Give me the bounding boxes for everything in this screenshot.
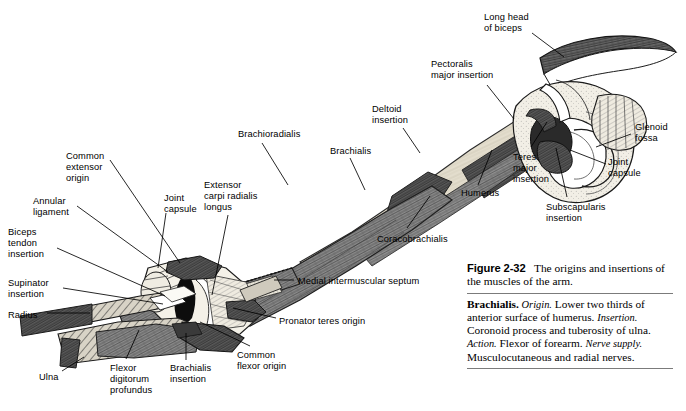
label-long-head-of-biceps: Long head of biceps [484,12,529,34]
label-pronator-teres-origin: Pronator teres origin [279,316,365,327]
label-joint-capsule-right: Joint capsule [608,157,641,179]
label-common-flexor-origin: Common flexor origin [237,350,286,372]
label-annular-ligament: Annular ligament [33,196,69,218]
caption-title: Figure 2-32 The origins and insertions o… [467,262,673,289]
label-teres-major-insertion: Teres major insertion [513,152,549,186]
label-coracobrachialis: Coracobrachialis [377,234,448,245]
brachialis-shape [228,186,452,326]
label-joint-capsule-left: Joint capsule [164,193,197,215]
label-brachialis: Brachialis [330,146,371,157]
label-brachioradialis: Brachioradialis [238,129,300,140]
figure-page: Long head of bicepsPectoralis major inse… [0,0,686,411]
figure-caption: Figure 2-32 The origins and insertions o… [467,262,673,373]
clavicle-acromion [540,36,676,88]
label-deltoid-insertion: Deltoid insertion [372,104,408,126]
label-subscapularis-insertion: Subscapularis insertion [546,202,606,224]
label-supinator-insertion: Supinator insertion [8,278,49,300]
figure-number: Figure 2-32 [467,262,526,274]
leader-deltoid-insertion [403,128,420,153]
leader-brachioradialis [262,143,288,185]
label-extensor-carpi-radialis-longus: Extensor carpi radialis longus [204,180,258,214]
label-glenoid-fossa: Glenoid fossa [635,122,668,144]
label-ulna: Ulna [39,372,59,383]
leader-annular-ligament [77,206,168,272]
caption-body: Brachialis. Origin. Lower two thirds of … [467,298,673,364]
caption-action-label: Action. [467,338,497,349]
caption-nerve-label: Nerve supply. [586,338,643,349]
caption-insertion-label: Insertion. [597,312,637,323]
leader-brachialis [350,158,365,190]
caption-insertion-text: Coronoid process and tuberosity of ulna. [467,324,651,336]
label-flexor-digitorum-profundus: Flexor digitorum profundus [110,363,152,397]
caption-divider-bottom [467,368,673,369]
label-humerus: Humerus [461,188,499,199]
caption-divider-top [467,293,673,294]
label-radius: Radius [8,310,38,321]
caption-action-text: Flexor of forearm. [500,337,583,349]
caption-muscle-name: Brachialis. [467,298,519,310]
label-common-extensor-origin: Common extensor origin [66,151,104,185]
caption-nerve-text: Musculocutaneous and radial nerves. [467,351,635,363]
label-brachialis-insertion: Brachialis insertion [170,363,211,385]
label-medial-intermuscular-septum: Medial intermuscular septum [298,276,419,287]
leader-pectoralis-major-insertion [487,85,514,119]
caption-origin-label: Origin. [522,299,552,310]
label-pectoralis-major-insertion: Pectoralis major insertion [431,59,493,81]
label-biceps-tendon-insertion: Biceps tendon insertion [8,227,44,261]
